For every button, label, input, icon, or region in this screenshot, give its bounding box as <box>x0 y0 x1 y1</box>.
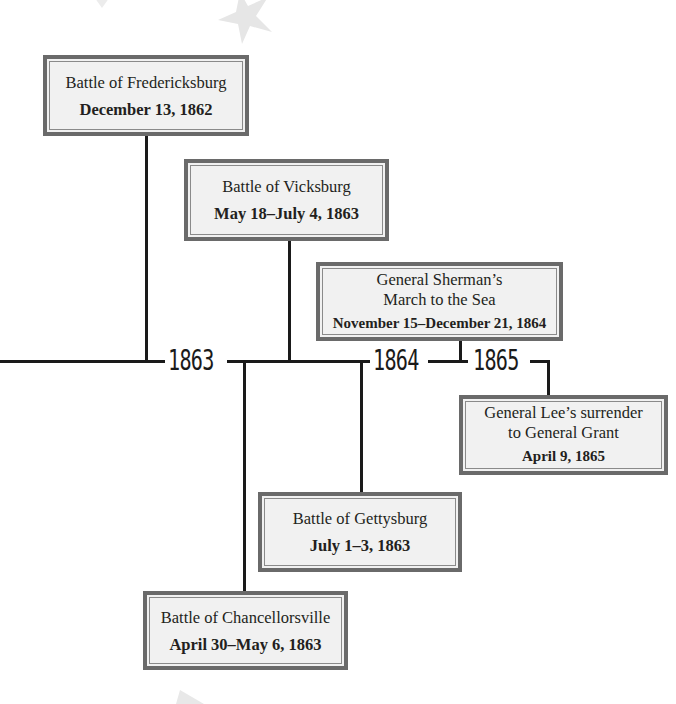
event-title: General Sherman’s <box>377 270 503 290</box>
event-title: Battle of Chancellorsville <box>161 607 331 628</box>
event-title: Battle of Fredericksburg <box>66 72 227 93</box>
event-title: March to the Sea <box>383 290 495 310</box>
timeline-axis <box>0 360 165 363</box>
star-decoration-icon <box>92 0 112 8</box>
event-date: May 18–July 4, 1863 <box>214 203 359 224</box>
event-date: December 13, 1862 <box>79 99 212 120</box>
timeline-axis <box>227 360 370 363</box>
year-label-1865: 1865 <box>473 346 519 376</box>
event-box-vicksburg: Battle of Vicksburg May 18–July 4, 1863 <box>184 159 389 241</box>
event-box-sherman: General Sherman’s March to the Sea Novem… <box>316 262 563 341</box>
event-box-gettysburg: Battle of Gettysburg July 1–3, 1863 <box>258 492 462 572</box>
event-box-lee: General Lee’s surrender to General Grant… <box>459 395 668 475</box>
timeline-connector <box>360 362 363 493</box>
timeline-connector <box>547 360 550 396</box>
timeline-connector <box>459 339 462 362</box>
event-box-fredericksburg: Battle of Fredericksburg December 13, 18… <box>43 55 249 136</box>
timeline-connector <box>243 362 246 592</box>
event-title: Battle of Vicksburg <box>222 176 351 197</box>
event-date: April 9, 1865 <box>522 446 605 467</box>
year-label-1863: 1863 <box>168 346 214 376</box>
event-date: July 1–3, 1863 <box>310 535 410 556</box>
star-decoration-icon <box>176 690 206 704</box>
year-label-1864: 1864 <box>373 346 419 376</box>
event-title: to General Grant <box>508 423 619 443</box>
event-title: Battle of Gettysburg <box>293 508 427 529</box>
timeline-connector <box>145 134 148 362</box>
star-decoration-icon <box>210 0 280 47</box>
timeline-axis <box>428 360 468 363</box>
event-date: April 30–May 6, 1863 <box>169 634 321 655</box>
event-box-chancellorsville: Battle of Chancellorsville April 30–May … <box>143 591 348 670</box>
timeline-connector <box>288 239 291 362</box>
event-date: November 15–December 21, 1864 <box>333 313 547 334</box>
event-title: General Lee’s surrender <box>484 403 643 423</box>
